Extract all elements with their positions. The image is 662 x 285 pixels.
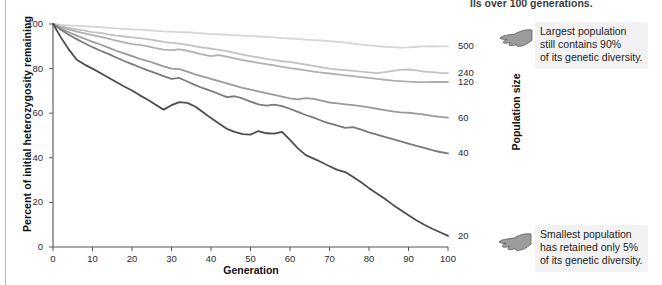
series-endpoint-label-40: 40 — [458, 147, 469, 158]
x-tick-label: 80 — [356, 253, 382, 264]
series-line-120 — [53, 24, 448, 82]
figure-root: lls over 100 generations. Percent of ini… — [0, 0, 662, 285]
series-endpoint-label-500: 500 — [458, 40, 474, 51]
x-tick-label: 20 — [119, 253, 145, 264]
x-tick-label: 50 — [238, 253, 264, 264]
x-tick-label: 0 — [40, 253, 66, 264]
series-layer — [53, 24, 448, 236]
callout-line: Smallest population — [540, 228, 643, 241]
y-tick-label: 100 — [17, 18, 43, 29]
y-tick-label: 20 — [17, 196, 43, 207]
y-tick-label: 40 — [17, 152, 43, 163]
x-tick-label: 10 — [80, 253, 106, 264]
callout-line: of its genetic diversity. — [540, 51, 643, 64]
callout-line: Largest population — [540, 25, 643, 38]
x-tick-label: 40 — [198, 253, 224, 264]
series-endpoint-label-20: 20 — [458, 230, 469, 241]
callout-line: still contains 90% — [540, 38, 643, 51]
callout-line: has retained only 5% — [540, 241, 643, 254]
pointing-hand-icon — [497, 231, 533, 253]
x-tick-label: 30 — [159, 253, 185, 264]
smallest-population-callout: Smallest population has retained only 5%… — [535, 225, 648, 272]
y-tick-label: 80 — [17, 63, 43, 74]
series-endpoint-label-60: 60 — [458, 112, 469, 123]
callout-line: of its genetic diversity. — [540, 254, 643, 267]
largest-population-callout: Largest population still contains 90% of… — [535, 22, 648, 69]
y-tick-label: 60 — [17, 107, 43, 118]
x-tick-label: 70 — [317, 253, 343, 264]
pointing-hand-icon — [498, 27, 534, 49]
x-tick-label: 90 — [396, 253, 422, 264]
x-tick-label: 60 — [277, 253, 303, 264]
series-endpoint-label-120: 120 — [458, 76, 474, 87]
y-tick-label: 0 — [17, 241, 43, 252]
x-tick-label: 100 — [435, 253, 461, 264]
